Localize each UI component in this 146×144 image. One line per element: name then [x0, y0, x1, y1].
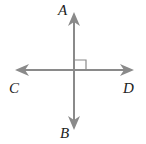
- right-angle-marker-icon: [74, 60, 86, 70]
- label-c: C: [9, 80, 20, 96]
- perpendicular-lines-diagram: A B C D: [0, 0, 146, 144]
- label-b: B: [60, 125, 69, 141]
- label-d: D: [122, 80, 134, 96]
- label-a: A: [57, 2, 68, 18]
